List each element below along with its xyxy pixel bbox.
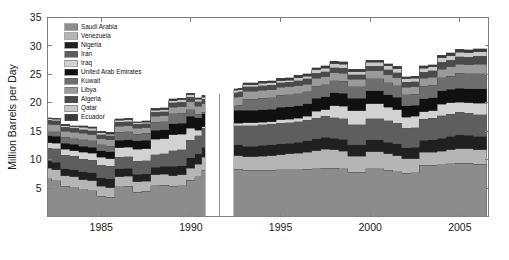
legend-swatch-nigeria <box>65 42 78 48</box>
y-tick-label: 5 <box>36 182 42 194</box>
legend-swatch-libya <box>65 87 78 93</box>
x-tick-label: 2005 <box>448 221 472 233</box>
y-axis-title-text: Million Barrels per Day <box>6 63 18 169</box>
x-tick-label: 1990 <box>179 221 203 233</box>
x-tick-label: 2000 <box>359 221 383 233</box>
legend-swatch-iraq <box>65 60 78 66</box>
chart-legend: Saudi ArabiaVenezuelaNigeriaIranIraqUnit… <box>65 23 142 121</box>
figure-container: 19851990199520002005 5101520253035 Milli… <box>0 0 509 260</box>
x-axis-tick-labels: 19851990199520002005 <box>90 221 472 233</box>
x-tick-label: 1995 <box>269 221 293 233</box>
legend-swatch-venezuela <box>65 33 78 39</box>
legend-swatch-saudi-arabia <box>65 24 78 30</box>
legend-label-iran: Iran <box>81 50 92 57</box>
legend-label-venezuela: Venezuela <box>81 32 111 39</box>
y-tick-label: 20 <box>30 96 42 108</box>
y-tick-label: 30 <box>30 40 42 52</box>
x-tick-label: 1985 <box>90 221 114 233</box>
legend-label-nigeria: Nigeria <box>81 41 102 49</box>
y-axis-title: Million Barrels per Day <box>6 63 18 169</box>
legend-label-ecuador: Ecuador <box>81 113 106 120</box>
legend-swatch-kuwait <box>65 78 78 84</box>
legend-label-kuwait: Kuwait <box>81 77 100 84</box>
legend-swatch-ecuador <box>65 114 78 120</box>
legend-swatch-qatar <box>65 105 78 111</box>
legend-label-united-arab-emirates: United Arab Emirates <box>81 68 141 75</box>
legend-label-algeria: Algeria <box>81 95 101 103</box>
legend-label-libya: Libya <box>81 86 97 94</box>
y-tick-label: 15 <box>30 125 42 137</box>
legend-swatch-algeria <box>65 96 78 102</box>
y-tick-label: 35 <box>30 11 42 23</box>
legend-label-iraq: Iraq <box>81 59 92 67</box>
y-axis-tick-labels: 5101520253035 <box>30 11 42 194</box>
legend-swatch-iran <box>65 51 78 57</box>
legend-swatch-united-arab-emirates <box>65 69 78 75</box>
y-tick-label: 25 <box>30 68 42 80</box>
legend-label-saudi-arabia: Saudi Arabia <box>81 23 118 30</box>
stacked-area-chart: 19851990199520002005 5101520253035 Milli… <box>0 0 509 260</box>
legend-label-qatar: Qatar <box>81 104 98 112</box>
y-tick-label: 10 <box>30 153 42 165</box>
